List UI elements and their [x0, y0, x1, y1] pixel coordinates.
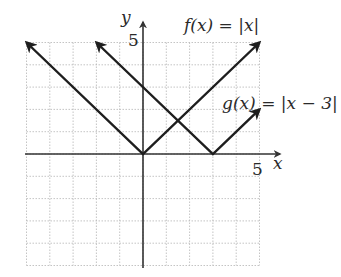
graph-canvas [0, 0, 341, 277]
x-tick-5: 5 [252, 161, 263, 178]
f-function-label: f(x) = |x| [184, 17, 259, 34]
y-tick-5: 5 [128, 32, 139, 49]
y-axis-label: y [121, 9, 131, 26]
x-axis-label: x [273, 155, 283, 172]
g-function-label: g(x) = |x − 3| [222, 95, 338, 112]
